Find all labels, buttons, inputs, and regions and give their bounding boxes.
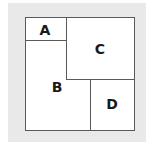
- region-label-c: C: [95, 42, 105, 56]
- divider-c-d: [66, 79, 135, 80]
- region-label-b: B: [52, 80, 63, 94]
- region-label-a: A: [40, 23, 51, 37]
- divider-a-b: [25, 40, 67, 41]
- region-label-d: D: [106, 97, 118, 111]
- divider-a-c: [66, 17, 67, 80]
- divider-b-d: [90, 79, 91, 131]
